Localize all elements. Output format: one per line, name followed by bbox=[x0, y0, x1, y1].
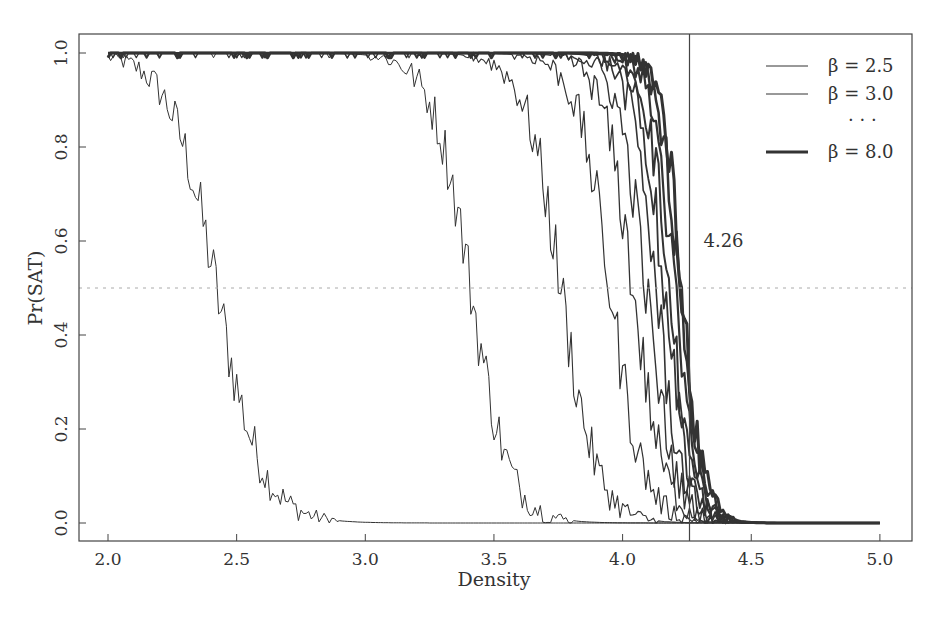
threshold-label: 4.26 bbox=[703, 230, 743, 251]
y-tick-label: 1.0 bbox=[51, 39, 71, 66]
y-tick-label: 0.2 bbox=[51, 415, 71, 442]
y-tick-label: 0.8 bbox=[51, 133, 71, 160]
x-axis-label: Density bbox=[457, 568, 530, 590]
x-axis-ticks: 2.02.53.03.54.04.55.0 bbox=[94, 534, 893, 569]
x-tick-label: 2.5 bbox=[223, 549, 250, 569]
legend-label: β = 2.5 bbox=[828, 55, 894, 76]
x-tick-label: 3.5 bbox=[480, 549, 507, 569]
x-tick-label: 2.0 bbox=[94, 549, 121, 569]
chart: 4.26 2.02.53.03.54.04.55.0 0.00.20.40.60… bbox=[0, 0, 949, 618]
legend-label: β = 8.0 bbox=[828, 141, 894, 162]
legend-label: β = 3.0 bbox=[828, 83, 894, 104]
y-tick-label: 0.0 bbox=[51, 509, 71, 536]
y-tick-label: 0.4 bbox=[51, 321, 71, 348]
legend: β = 2.5β = 3.0· · ·β = 8.0 bbox=[766, 55, 894, 162]
legend-label: · · · bbox=[848, 109, 877, 130]
x-tick-label: 4.5 bbox=[738, 549, 765, 569]
x-tick-label: 5.0 bbox=[866, 549, 893, 569]
x-tick-label: 3.0 bbox=[352, 549, 379, 569]
y-axis-label: Pr(SAT) bbox=[24, 250, 46, 325]
x-tick-label: 4.0 bbox=[609, 549, 636, 569]
y-tick-label: 0.6 bbox=[51, 227, 71, 254]
